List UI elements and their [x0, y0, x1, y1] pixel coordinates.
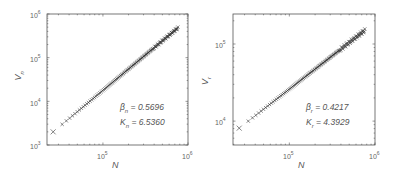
x-tick-1e5: 105 — [97, 150, 108, 160]
chart-vr: 105 104 105 106 N Vr βr = 0.4217 Kr = 4.… — [198, 0, 396, 178]
data-point — [363, 27, 366, 30]
data-point — [251, 116, 254, 119]
y-tick-1e4: 104 — [215, 116, 226, 126]
y-axis-label: Vn — [13, 71, 25, 80]
x-tick-1e6: 106 — [369, 150, 380, 160]
beta-value: βr = 0.4217 — [306, 102, 349, 117]
y-tick-1e5: 105 — [30, 53, 41, 63]
y-tick-1e5: 105 — [215, 39, 226, 49]
k-value: Kn = 6.5360 — [120, 117, 165, 132]
data-point — [68, 117, 71, 120]
data-point — [264, 106, 267, 109]
plot-area-vr — [198, 0, 396, 178]
data-point — [247, 120, 250, 123]
fit-annotation: βr = 0.4217 Kr = 4.3929 — [306, 102, 349, 131]
chart-vn: 106 105 104 103 105 106 N Vn βn = 0.5696… — [0, 0, 198, 178]
beta-value: βn = 0.5696 — [120, 102, 165, 117]
y-tick-1e4: 104 — [30, 97, 41, 107]
data-point — [61, 123, 64, 126]
data-point — [254, 114, 257, 117]
x-tick-1e5: 105 — [283, 150, 294, 160]
y-axis-label: Vr — [200, 77, 212, 85]
x-axis-label: N — [298, 160, 305, 170]
y-tick-1e3: 103 — [30, 140, 41, 150]
k-value: Kr = 4.3929 — [306, 117, 349, 132]
fit-annotation: βn = 0.5696 Kn = 6.5360 — [120, 102, 165, 131]
data-point — [65, 119, 68, 122]
data-point — [237, 126, 242, 131]
x-axis-label: N — [112, 160, 119, 170]
data-point — [260, 109, 263, 112]
data-point — [257, 111, 260, 114]
x-tick-1e6: 106 — [182, 150, 193, 160]
y-tick-1e6: 106 — [30, 9, 41, 19]
data-point — [262, 108, 265, 111]
data-point — [51, 129, 56, 134]
